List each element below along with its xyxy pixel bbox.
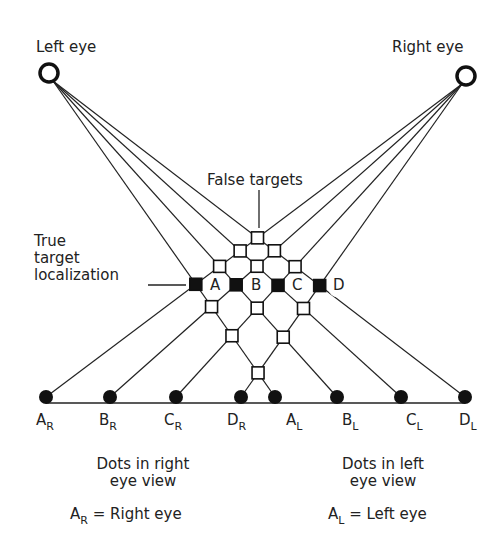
false-target-marker (289, 261, 301, 273)
legend-right-eye: AR = Right eye (70, 506, 182, 524)
false-target-marker (277, 331, 289, 343)
target-label-a: A (210, 277, 220, 294)
right-view-caption-line1: Dots in right (72, 456, 214, 473)
false-target-marker (234, 245, 246, 257)
right-eye-icon (457, 67, 475, 85)
left-eye-icon (40, 64, 58, 82)
true-target-marker (272, 279, 284, 291)
stimulus-dot (268, 390, 282, 404)
false-target-marker (206, 301, 218, 313)
true-target-marker (230, 279, 242, 291)
right-view-caption: Dots in right eye view (72, 456, 214, 490)
dot-label-cr: CR (164, 412, 182, 430)
left-view-caption-line1: Dots in left (318, 456, 448, 473)
stimulus-dot (458, 390, 472, 404)
stimulus-dot (234, 390, 248, 404)
false-target-marker (252, 232, 264, 244)
true-target-label: True target localization (34, 233, 119, 284)
right-eye-sight-line (110, 84, 462, 397)
left-view-caption-line2: eye view (318, 473, 448, 490)
false-target-marker (251, 260, 263, 272)
true-target-line1: True (34, 233, 119, 250)
dot-label-cl: CL (406, 412, 423, 430)
right-eye-label: Right eye (392, 39, 464, 56)
false-targets-label: False targets (207, 172, 303, 189)
false-target-marker (252, 367, 264, 379)
stimulus-dot (169, 390, 183, 404)
left-eye-label: Left eye (36, 39, 96, 56)
false-target-marker (226, 330, 238, 342)
false-target-marker (268, 245, 280, 257)
false-target-marker (214, 260, 226, 272)
stimulus-dot (39, 390, 53, 404)
stimulus-dot (394, 390, 408, 404)
true-target-line3: localization (34, 267, 119, 284)
dot-label-ar: AR (36, 412, 54, 430)
right-eye-sight-line (176, 84, 462, 397)
dot-label-dl: DL (459, 412, 477, 430)
stimulus-dot (330, 390, 344, 404)
false-target-marker (251, 302, 263, 314)
left-view-caption: Dots in left eye view (318, 456, 448, 490)
dot-label-dr: DR (227, 412, 246, 430)
stimulus-dot (103, 390, 117, 404)
right-view-caption-line2: eye view (72, 473, 214, 490)
target-label-c: C (292, 277, 302, 294)
true-target-line2: target (34, 250, 119, 267)
dot-label-bl: BL (342, 412, 358, 430)
true-target-marker (314, 280, 326, 292)
dot-label-al: AL (286, 412, 302, 430)
target-label-b: B (251, 277, 261, 294)
true-target-marker (190, 278, 202, 290)
false-target-marker (298, 302, 310, 314)
right-eye-sight-line (241, 84, 462, 397)
dot-label-br: BR (99, 412, 117, 430)
legend-left-eye: AL = Left eye (328, 506, 427, 524)
target-label-d: D (333, 277, 345, 294)
